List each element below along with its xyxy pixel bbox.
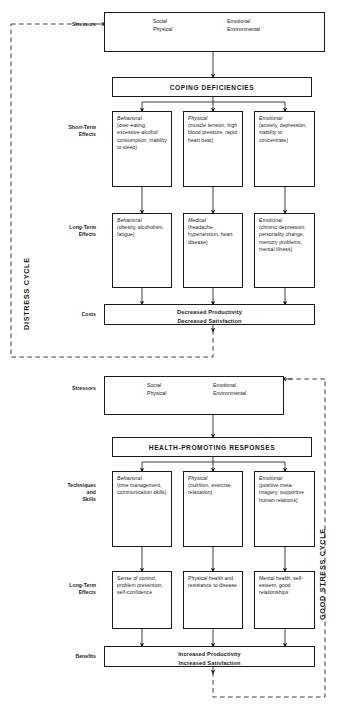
short-term-emotional-body: (anxiety, depression, inability to conce… [259, 122, 307, 142]
good-long-term-physical-body: Physical health and resistance to diseas… [188, 575, 237, 588]
short-term-behavioral-box: Behavioral (over-eating, excessive alcoh… [112, 111, 172, 187]
good-long-term-mental-box: Mental health, self-esteem, good relatio… [254, 571, 315, 629]
costs-line2: Decreased Satisfaction [177, 318, 241, 324]
techniques-label-line1: Techniques [68, 482, 96, 488]
distress-long-term-label-line1: Long-Term [69, 224, 96, 230]
long-term-medical-box: Medical (headache, hypertension, heart d… [183, 213, 243, 288]
benefits-box: Increased Productivity Increased Satisfa… [104, 646, 315, 667]
long-term-emotional-box: Emotional (chronic depression, personali… [254, 213, 315, 288]
good-stressors-box: Social Physical Emotional Environmental [104, 376, 284, 415]
benefits-label: Benefits [32, 653, 96, 660]
techniques-behavioral-body: (time management, communication skills) [117, 482, 166, 495]
techniques-physical-body: (nutrition, exercise, relaxation) [188, 482, 232, 495]
short-term-behavioral-body: (over-eating, excessive alcohol consumpt… [117, 122, 167, 150]
techniques-label-line2: and [87, 489, 96, 495]
long-term-behavioral-body: (obesity, alcoholism, fatigue) [117, 224, 164, 237]
long-term-behavioral-box: Behavioral (obesity, alcoholism, fatigue… [112, 213, 172, 288]
stressor-physical: Physical [153, 26, 172, 32]
costs-label: Costs [40, 311, 96, 318]
costs-box: Decreased Productivity Decreased Satisfa… [104, 304, 315, 325]
techniques-physical-heading: Physical [188, 475, 239, 482]
good-long-term-physical-box: Physical health and resistance to diseas… [183, 571, 243, 629]
short-term-behavioral-heading: Behavioral [117, 115, 168, 122]
distress-stressors-label: Stressors [30, 21, 96, 28]
good-stressors-label: Stressors [30, 385, 96, 392]
stressor-environmental: Environmental [227, 26, 260, 32]
good-stress-cycle-label: GOOD STRESS CYCLE [318, 528, 327, 620]
distress-long-term-effects-label: Long-Term Effects [40, 224, 96, 238]
coping-deficiencies-banner: COPING DEFICIENCIES [112, 77, 312, 97]
benefits-line1: Increased Productivity [178, 651, 241, 657]
good-long-term-label-line1: Long-Term [69, 582, 96, 588]
good-stressor-emotional: Emotional [213, 382, 236, 388]
health-promoting-responses-banner: HEALTH-PROMOTING RESPONSES [112, 437, 312, 457]
long-term-medical-body: (headache, hypertension, heart disease) [188, 224, 233, 244]
short-term-physical-box: Physical (muscle tension, high blood pre… [183, 111, 243, 187]
good-long-term-control-body: Sense of control, problem prevention, se… [117, 575, 163, 595]
benefits-line2: Increased Satisfaction [178, 660, 240, 666]
long-term-emotional-body: (chronic depression, personality change,… [259, 224, 306, 252]
techniques-emotional-heading: Emotional [259, 475, 311, 482]
long-term-behavioral-heading: Behavioral [117, 217, 168, 224]
techniques-behavioral-heading: Behavioral [117, 475, 168, 482]
long-term-medical-heading: Medical [188, 217, 239, 224]
stressor-emotional: Emotional [227, 18, 250, 24]
short-term-emotional-heading: Emotional [259, 115, 311, 122]
good-long-term-mental-body: Mental health, self-esteem, good relatio… [259, 575, 303, 595]
stressor-social: Social [153, 18, 167, 24]
short-term-physical-heading: Physical [188, 115, 239, 122]
good-stressor-environmental: Environmental [213, 390, 246, 396]
distress-stressors-box: Social Physical Emotional Environmental [104, 12, 325, 52]
techniques-behavioral-box: Behavioral (time management, communicati… [112, 471, 172, 547]
good-stressor-physical: Physical [147, 390, 166, 396]
long-term-emotional-heading: Emotional [259, 217, 311, 224]
short-term-physical-body: (muscle tension, high blood pressure, ra… [188, 122, 237, 142]
diagram-canvas: DISTRESS CYCLE GOOD STRESS CYCLE Stresso… [0, 0, 337, 713]
costs-line1: Decreased Productivity [177, 309, 242, 315]
short-term-effects-label-line1: Short-Term [68, 124, 96, 130]
good-long-term-control-box: Sense of control, problem prevention, se… [112, 571, 172, 629]
short-term-effects-label-line2: Effects [79, 131, 96, 137]
distress-long-term-label-line2: Effects [79, 231, 96, 237]
distress-cycle-label: DISTRESS CYCLE [22, 257, 31, 330]
techniques-label-line3: Skills [82, 496, 96, 502]
good-long-term-label-line2: Effects [79, 589, 96, 595]
short-term-effects-label: Short-Term Effects [40, 124, 96, 138]
techniques-physical-box: Physical (nutrition, exercise, relaxatio… [183, 471, 243, 547]
techniques-emotional-box: Emotional (positive meta-imagery, suppor… [254, 471, 315, 547]
good-stressor-social: Social [147, 382, 161, 388]
techniques-and-skills-label: Techniques and Skills [28, 482, 96, 503]
techniques-emotional-body: (positive meta-imagery, supportive human… [259, 482, 304, 502]
short-term-emotional-box: Emotional (anxiety, depression, inabilit… [254, 111, 315, 187]
good-long-term-effects-label: Long-Term Effects [40, 582, 96, 596]
